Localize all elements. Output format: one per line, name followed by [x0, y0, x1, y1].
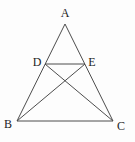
edge-AC	[65, 24, 113, 121]
edge-AB	[17, 24, 65, 121]
vertex-label-B: B	[4, 117, 12, 131]
vertex-label-D: D	[33, 55, 42, 69]
vertex-label-E: E	[88, 55, 95, 69]
vertex-label-A: A	[61, 6, 70, 20]
edge-DC	[45, 64, 113, 121]
triangle-diagram: ABCDE	[0, 0, 135, 142]
geometry-figure: ABCDE	[0, 0, 135, 142]
vertex-label-C: C	[117, 119, 125, 133]
edge-EB	[17, 64, 85, 121]
